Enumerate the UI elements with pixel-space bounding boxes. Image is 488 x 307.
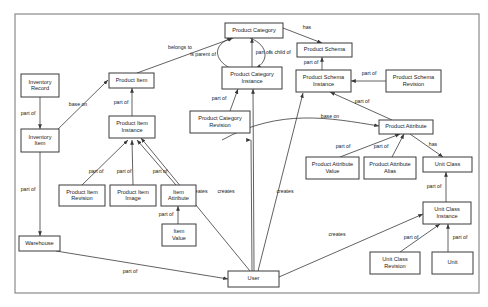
edge-label: part of — [404, 234, 419, 240]
node-item-value[interactable]: ItemValue — [162, 224, 196, 246]
node-user[interactable]: User — [228, 271, 279, 287]
node-label: Item — [174, 228, 185, 234]
edge-label: part of — [89, 168, 104, 174]
edge-line — [82, 140, 128, 185]
edge-label: part of — [212, 95, 227, 101]
edge-product-attribute-to-schema-instance: part of — [330, 92, 392, 120]
node-label: Warehouse — [25, 240, 53, 246]
node-label: Product Schema — [304, 46, 346, 52]
edge-product-item-to-product-category: belongs to — [137, 38, 233, 73]
node-product-attribute-alias[interactable]: Product AttributeAlias — [364, 157, 416, 179]
edge-label: is child of — [269, 49, 291, 55]
edge-label: has — [303, 24, 312, 30]
edge-product-attribute-has-unit-class: has — [410, 134, 443, 157]
node-label: Inventory — [28, 134, 51, 140]
edge-product-category-is-parent-of: is parent of — [190, 38, 232, 68]
edge-product-attribute-alias-to-attribute: part of — [374, 134, 404, 157]
edge-product-item-instance-to-product-item-revision: part of — [82, 140, 128, 185]
node-label: Instance — [241, 78, 262, 84]
node-product-category[interactable]: Product Category — [225, 23, 283, 38]
node-product-item-image[interactable]: Product ItemImage — [110, 185, 156, 206]
node-product-category-revision[interactable]: Product CategoryRevision — [190, 111, 250, 133]
edge-label: part of — [114, 99, 129, 105]
node-product-attribute-value[interactable]: Product AttributeValue — [306, 157, 359, 179]
node-label: Inventory — [28, 79, 51, 85]
edge-line — [56, 251, 228, 279]
edge-label: part of — [362, 70, 377, 76]
node-product-category-instance[interactable]: Product CategoryInstance — [222, 67, 282, 89]
edge-label: part of — [374, 143, 389, 149]
edge-label: creates — [276, 188, 293, 194]
edge-product-category-instance-to-product-category: part of — [252, 38, 271, 67]
edge-line — [137, 38, 233, 73]
node-label: Product Attribute — [385, 123, 426, 129]
node-label: Image — [125, 195, 141, 201]
node-product-item[interactable]: Product Item — [109, 73, 154, 88]
edge-line — [52, 80, 108, 135]
node-unit-class[interactable]: Unit Class — [423, 157, 472, 172]
node-label: Product Category — [230, 71, 274, 77]
edges-layer: part ofbase onpart ofbelongs topart ofpa… — [21, 24, 468, 279]
node-product-item-revision[interactable]: Product ItemRevision — [59, 185, 105, 206]
edge-label: part of — [355, 98, 370, 104]
node-label: Instance — [313, 81, 334, 87]
edge-label: part of — [117, 168, 132, 174]
node-label: Product Schema — [303, 74, 345, 80]
edge-label: part of — [21, 110, 36, 116]
edge-label: base on — [69, 101, 88, 107]
edge-label: creates — [217, 188, 234, 194]
node-product-item-instance[interactable]: Product ItemInstance — [109, 116, 155, 138]
node-label: Product Schema — [393, 74, 435, 80]
node-inventory-record[interactable]: InventoryRecord — [21, 74, 59, 97]
node-label: Unit Class — [434, 206, 460, 212]
node-label: Product Attribute — [369, 161, 410, 167]
node-product-schema[interactable]: Product Schema — [297, 43, 352, 57]
edge-label: belongs to — [168, 44, 192, 50]
node-label: Product Item — [116, 77, 148, 83]
node-label: Product Item — [116, 120, 148, 126]
node-product-schema-revision[interactable]: Product SchemaRevision — [386, 70, 441, 92]
node-label: Item — [35, 140, 46, 146]
diagram-canvas: part ofbase onpart ofbelongs topart ofpa… — [0, 0, 488, 307]
edge-label: has — [429, 141, 438, 147]
node-product-attribute[interactable]: Product Attribute — [379, 120, 433, 134]
node-label: Product Category — [232, 27, 276, 33]
node-label: Product Attribute — [312, 161, 353, 167]
node-unit-class-instance[interactable]: Unit ClassInstance — [423, 202, 471, 224]
node-label: Item — [173, 189, 184, 195]
node-label: Unit Class — [435, 161, 461, 167]
edge-inventory-item-to-product-item: base on — [52, 80, 108, 135]
edge-product-item-image-to-product-item-instance: part of — [117, 140, 133, 185]
edge-label: part of — [427, 183, 442, 189]
node-inventory-item[interactable]: InventoryItem — [21, 129, 59, 152]
edge-user-creates-item-attribute: creates — [190, 140, 252, 271]
node-item-attribute[interactable]: ItemAttribute — [161, 185, 196, 206]
node-label: Record — [31, 85, 49, 91]
edge-item-value-to-item-attribute: part of — [159, 206, 178, 224]
edge-product-category-to-product-schema: has — [283, 24, 322, 43]
edge-line — [330, 92, 392, 120]
node-label: Alias — [384, 168, 396, 174]
node-label: Value — [172, 235, 186, 241]
node-label: Revision — [209, 122, 230, 128]
node-label: User — [248, 275, 260, 281]
edge-product-attribute-value-to-attribute: part of — [336, 134, 400, 157]
edge-line — [251, 140, 252, 271]
node-label: Product Item — [66, 189, 98, 195]
node-label: Revision — [403, 81, 424, 87]
node-unit-class-revision[interactable]: Unit ClassRevision — [370, 252, 420, 274]
edge-item-attribute-to-product-item-instance: part of — [137, 140, 176, 185]
edge-label: part of — [21, 186, 36, 192]
node-product-schema-instance[interactable]: Product SchemaInstance — [296, 70, 351, 92]
edge-line — [137, 140, 176, 185]
edge-line — [392, 134, 404, 157]
edge-warehouse-to-user: part of — [56, 251, 228, 279]
node-unit[interactable]: Unit — [432, 252, 473, 274]
node-label: Instance — [436, 213, 457, 219]
edge-product-schema-revision-to-instance: part of — [351, 70, 386, 81]
edge-product-category-revision-to-instance: part of — [212, 89, 238, 111]
diagram-frame — [15, 14, 479, 293]
node-label: Unit — [448, 259, 458, 265]
node-warehouse[interactable]: Warehouse — [19, 236, 60, 251]
edge-label: part of — [123, 268, 138, 274]
